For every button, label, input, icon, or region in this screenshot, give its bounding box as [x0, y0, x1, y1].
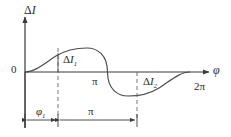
sine-wave-figure: ΔI φ 0 ΔI1 ΔI2 π 2π φ1 π: [0, 0, 231, 137]
origin-label: 0: [11, 64, 17, 75]
phi1-subscript: 1: [42, 112, 45, 119]
y-axis-variable: I: [32, 3, 36, 17]
dimension-label-pi: π: [88, 106, 94, 117]
delta-i1-subscript: 1: [74, 60, 77, 67]
pi-axis-tick-label: π: [92, 76, 98, 87]
delta-i1-annotation: ΔI1: [63, 54, 77, 68]
y-axis-label: ΔI: [24, 4, 36, 16]
two-pi-axis-tick-label: 2π: [194, 81, 205, 92]
delta-glyph: Δ: [24, 3, 32, 17]
x-axis-label: φ: [213, 64, 220, 76]
figure-canvas: [0, 0, 231, 137]
delta-i2-annotation: ΔI2: [143, 76, 157, 90]
delta-i2-subscript: 2: [154, 82, 157, 89]
dimension-label-phi1: φ1: [36, 106, 46, 120]
